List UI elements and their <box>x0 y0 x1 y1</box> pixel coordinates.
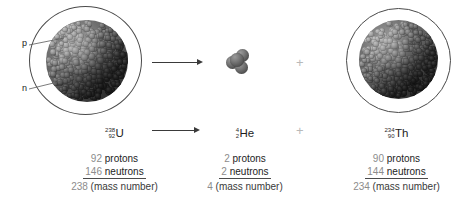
uranium-facts-column: 92 protons 146 neutrons 238 (mass number… <box>48 148 181 189</box>
thorium-protons-row: 90 protons <box>330 148 463 161</box>
helium-mass-value: 4 <box>207 181 213 192</box>
uranium-mass-value: 238 <box>71 181 88 192</box>
uranium-element-symbol: U <box>116 127 124 139</box>
thorium-mass-row: 234 (mass number) <box>330 174 463 189</box>
helium-facts-column: 2 protons 2 neutrons 4 (mass number) <box>191 148 299 189</box>
uranium-mass-row: 238 (mass number) <box>48 174 181 189</box>
uranium-mass-word: (mass number) <box>91 181 158 192</box>
thorium-equation-column: 234 90 Th <box>330 122 463 140</box>
reaction-arrow-top <box>152 58 204 67</box>
thorium-element-symbol: Th <box>395 127 408 139</box>
thorium-facts-column: 90 protons 144 neutrons 234 (mass number… <box>330 148 463 189</box>
thorium-isotope-numbers: 234 90 <box>385 127 395 139</box>
proton-leader-line <box>29 37 65 49</box>
thorium-mass-word: (mass number) <box>373 181 440 192</box>
thorium-atom-illustration <box>346 8 451 113</box>
thorium-neutrons-row: 144 neutrons <box>330 161 463 174</box>
proton-label: p <box>22 39 27 48</box>
helium-atomic-number-subscript: 2 <box>236 133 239 139</box>
neutron-leader-line <box>29 76 75 92</box>
uranium-atomic-number-subscript: 92 <box>105 133 115 139</box>
helium-protons-row: 2 protons <box>191 148 299 161</box>
helium-nucleus-illustration <box>224 48 252 76</box>
thorium-atomic-number-subscript: 90 <box>385 133 395 139</box>
alpha-decay-diagram: p n + 238 92 U <box>0 0 471 207</box>
thorium-mass-value: 234 <box>353 181 370 192</box>
uranium-neutrons-row: 146 neutrons <box>48 161 181 174</box>
helium-isotope-numbers: 4 2 <box>236 127 239 139</box>
helium-equation-column: 4 2 He <box>191 122 299 140</box>
uranium-atom-illustration <box>29 6 142 115</box>
helium-mass-word: (mass number) <box>216 181 283 192</box>
thorium-nucleus <box>359 20 438 99</box>
plus-sign-top: + <box>296 56 304 69</box>
helium-mass-row: 4 (mass number) <box>191 174 299 189</box>
helium-isotope-symbol: 4 2 He <box>236 126 255 140</box>
neutron-label: n <box>22 84 27 93</box>
helium-neutrons-row: 2 neutrons <box>191 161 299 174</box>
uranium-isotope-symbol: 238 92 U <box>105 126 124 140</box>
thorium-isotope-symbol: 234 90 Th <box>385 126 409 140</box>
plus-sign-bottom: + <box>296 124 304 137</box>
uranium-isotope-numbers: 238 92 <box>105 127 115 139</box>
helium-element-symbol: He <box>240 127 255 139</box>
uranium-protons-row: 92 protons <box>48 148 181 161</box>
